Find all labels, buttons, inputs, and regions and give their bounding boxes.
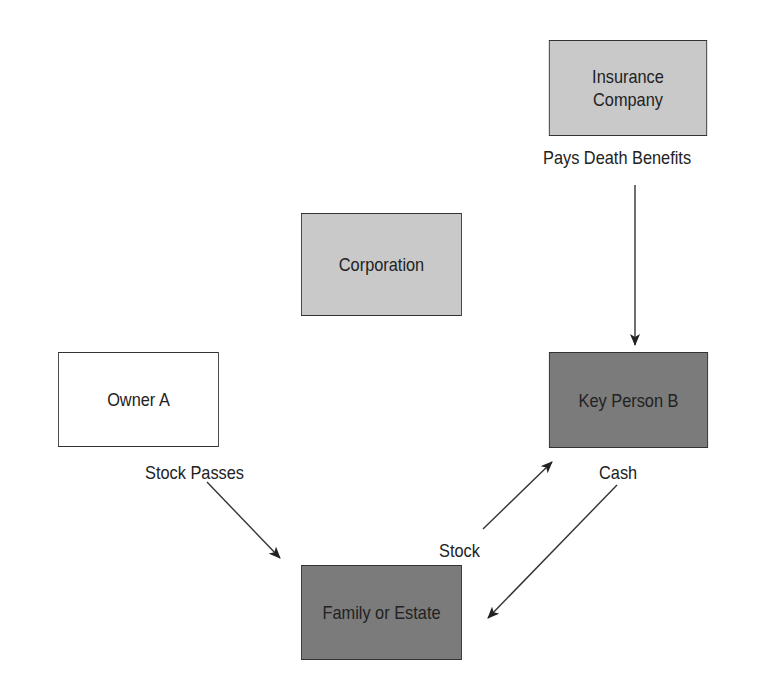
key-person-b-box: Key Person B xyxy=(549,352,708,448)
diagram-canvas: Insurance Company Pays Death Benefits Co… xyxy=(0,0,760,700)
key-person-b-label: Key Person B xyxy=(579,389,679,412)
cash-label: Cash xyxy=(599,462,637,484)
pays-death-benefits-label: Pays Death Benefits xyxy=(543,147,691,169)
stock-passes-label: Stock Passes xyxy=(145,462,244,484)
corporation-label: Corporation xyxy=(339,253,424,276)
insurance-company-label-1: Insurance xyxy=(592,65,664,88)
family-or-estate-label: Family or Estate xyxy=(322,601,440,624)
owner-a-label: Owner A xyxy=(107,388,170,411)
arrow-stock-to-keyperson xyxy=(483,462,552,529)
insurance-company-box: Insurance Company xyxy=(549,40,707,136)
insurance-company-label-2: Company xyxy=(592,88,664,111)
owner-a-box: Owner A xyxy=(58,352,219,447)
corporation-box: Corporation xyxy=(301,213,462,316)
stock-label: Stock xyxy=(439,540,480,562)
family-or-estate-box: Family or Estate xyxy=(301,565,462,660)
arrow-owner-to-family xyxy=(207,482,280,558)
